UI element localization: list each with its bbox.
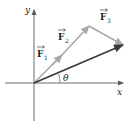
y-axis-label: y: [24, 5, 31, 15]
label-f2-subscript: 2: [65, 37, 69, 44]
theta-arc: [59, 74, 61, 83]
x-axis-label: x: [117, 87, 122, 97]
vector-resultant: [34, 45, 123, 83]
label-f3-subscript: 3: [107, 17, 111, 24]
label-f3: F 3: [100, 9, 111, 24]
label-f3-symbol: F: [100, 12, 107, 22]
vector-diagram: y x θ F 1 F 2 F 3: [0, 0, 130, 125]
label-f1: F 1: [37, 46, 48, 61]
label-f2-symbol: F: [58, 32, 65, 42]
theta-label: θ: [63, 73, 69, 83]
label-f2: F 2: [58, 29, 69, 44]
vector-f1-arrowhead: [52, 55, 62, 65]
label-f1-subscript: 1: [44, 54, 48, 61]
vector-f3: [89, 26, 123, 45]
label-f1-symbol: F: [37, 49, 44, 59]
